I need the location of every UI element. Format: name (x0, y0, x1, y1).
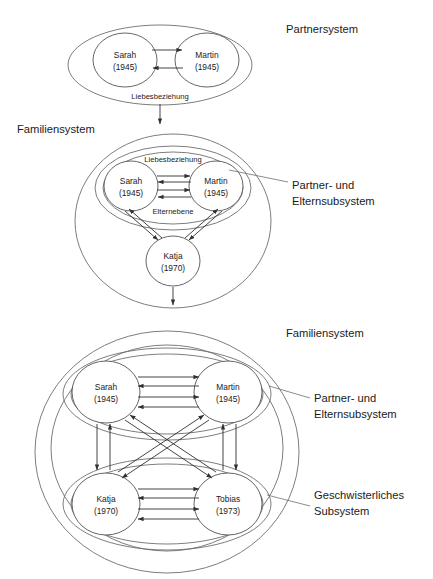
edge-sarah-to-tobias-panel3 (125, 420, 212, 478)
node-circle (175, 33, 239, 87)
node-name: Katja (163, 251, 182, 261)
node-martin-panel1: Martin (1945) (175, 33, 239, 87)
node-circle (72, 361, 140, 423)
callout-geschwister-line1-panel3: Geschwisterliches (314, 489, 405, 501)
node-sarah-panel3: Sarah (1945) (72, 361, 140, 423)
panel2-system-label: Familiensystem (17, 123, 95, 135)
edge-martin-to-katja-panel2 (189, 211, 222, 240)
node-name: Martin (216, 382, 240, 392)
node-name: Martin (195, 50, 219, 60)
callout-partner-eltern-line1-panel3: Partner- und (314, 392, 376, 404)
panel-familiensystem-1: Familiensystem Sarah (1945) Martin (1945… (17, 123, 375, 308)
node-martin-panel3: Martin (1945) (194, 361, 262, 423)
node-name: Sarah (120, 176, 143, 186)
callout-partner-eltern-line2-panel2: Elternsubsystem (292, 195, 375, 207)
node-name: Tobias (216, 494, 240, 504)
callout-partner-eltern-line2-panel3: Elternsubsystem (314, 408, 397, 420)
node-tobias-panel3: Tobias (1973) (194, 473, 262, 535)
panel1-system-label: Partnersystem (286, 23, 358, 35)
node-name: Sarah (95, 382, 118, 392)
callout-leader-partner-eltern-2 (269, 386, 310, 398)
node-katja-panel2: Katja (1970) (146, 236, 200, 286)
node-martin-panel2: Martin (1945) (189, 161, 243, 211)
edge-martin-to-katja-panel3 (122, 420, 209, 478)
node-year: (1970) (161, 263, 185, 273)
callout-partner-eltern-line1-panel2: Partner- und (292, 179, 354, 191)
node-circle (72, 473, 140, 535)
node-sarah-panel1: Sarah (1945) (93, 33, 157, 87)
node-circle (189, 161, 243, 211)
node-circle (104, 161, 158, 211)
node-year: (1973) (216, 506, 240, 516)
node-name: Sarah (114, 50, 137, 60)
node-circle (93, 33, 157, 87)
edge-label-liebesbeziehung-panel2: Liebesbeziehung (144, 155, 201, 164)
node-name: Katja (96, 494, 115, 504)
node-year: (1945) (119, 188, 143, 198)
node-circle (146, 236, 200, 286)
node-year: (1945) (204, 188, 228, 198)
diagram-canvas: Partnersystem Sarah (1945) Martin (1945)… (0, 0, 433, 579)
node-year: (1945) (113, 62, 137, 72)
panel3-system-label: Familiensystem (286, 327, 364, 339)
panel-partnersystem: Partnersystem Sarah (1945) Martin (1945)… (68, 23, 358, 124)
node-sarah-panel2: Sarah (1945) (104, 161, 158, 211)
node-year: (1945) (195, 62, 219, 72)
edge-label-elternebene-panel2: Elternebene (153, 207, 194, 216)
node-year: (1945) (216, 394, 240, 404)
edge-label-liebesbeziehung-panel1: Liebesbeziehung (131, 92, 188, 101)
node-name: Martin (204, 176, 228, 186)
familiensystem-boundary-ellipse-2 (35, 331, 299, 573)
panel-familiensystem-2: Familiensystem Sarah (1945) Martin (1945… (35, 327, 405, 573)
callout-leader-geschwister (267, 495, 310, 506)
node-year: (1945) (94, 394, 118, 404)
node-year: (1970) (94, 506, 118, 516)
node-circle (194, 361, 262, 423)
callout-geschwister-line2-panel3: Subsystem (314, 505, 369, 517)
node-circle (194, 473, 262, 535)
node-katja-panel3: Katja (1970) (72, 473, 140, 535)
